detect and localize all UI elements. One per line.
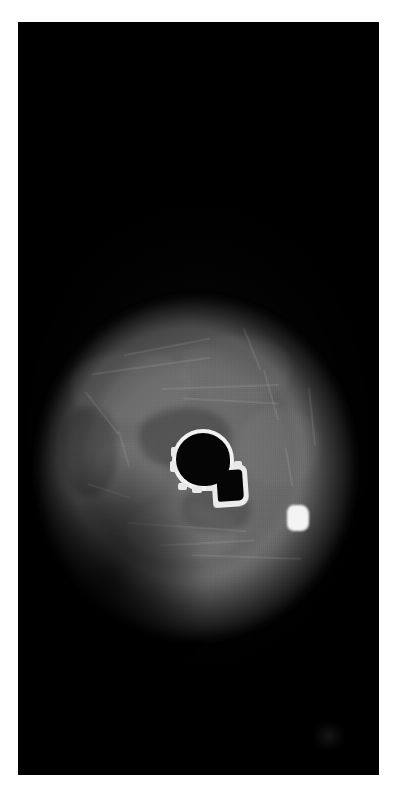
scan-page <box>0 0 400 796</box>
bright-focus-calcification <box>287 505 309 531</box>
cortical-notch <box>192 486 202 493</box>
scan-canvas[interactable] <box>18 22 379 775</box>
cortical-notch <box>178 483 187 490</box>
low-contrast-artifact <box>314 722 344 750</box>
medullary-cavity-spur <box>216 469 244 502</box>
bone-cross-section <box>168 427 258 522</box>
